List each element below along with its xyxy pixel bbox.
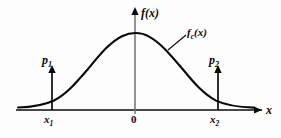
x2-tick-subscript: 2 bbox=[216, 119, 220, 128]
x1-tick-subscript: 1 bbox=[50, 119, 54, 128]
x-axis-label: x bbox=[266, 104, 272, 116]
curve-label-argument: (x) bbox=[194, 26, 207, 38]
x1-tick-label: x1 bbox=[44, 114, 53, 128]
y-axis-arrowhead bbox=[131, 7, 138, 15]
y-axis-label-text: f(x) bbox=[141, 6, 159, 20]
p1-label-subscript: 1 bbox=[48, 60, 52, 69]
x2-tick-label: x2 bbox=[210, 114, 219, 128]
p2-label: p2 bbox=[209, 54, 219, 70]
y-axis-label: f(x) bbox=[141, 7, 159, 19]
p1-label: p1 bbox=[42, 54, 52, 70]
p2-label-subscript: 2 bbox=[215, 60, 219, 69]
curve-label: fc(x) bbox=[187, 27, 207, 41]
probability-density-figure: f(x) fc(x) p1 p2 x1 0 x2 x bbox=[0, 0, 281, 138]
origin-tick-label: 0 bbox=[131, 114, 137, 125]
curve-label-leader-line bbox=[168, 35, 186, 50]
x-axis-arrowhead bbox=[254, 107, 262, 114]
